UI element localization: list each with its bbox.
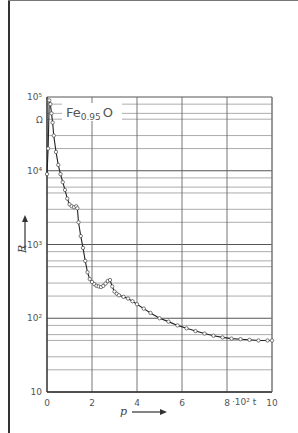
data-point-marker [59,172,62,175]
y-axis-label: R [16,245,29,254]
data-point-marker [88,277,91,280]
data-point-marker [52,134,55,137]
x-tick-label: 6 [179,398,185,408]
data-point-marker [212,334,215,337]
data-point-marker [46,147,49,150]
data-point-marker [51,121,54,124]
x-axis-extra-label: ·10² t [232,397,257,407]
data-point-marker [194,329,197,332]
y-tick-label: 10 [31,387,43,397]
y-tick-label: 10² [27,313,42,323]
resistance-chart: 02468101010²10³10⁴10⁵ Fe0.95O Ω p ·10² t… [0,0,298,433]
x-tick-label: 8 [224,398,230,408]
x-tick-label: 4 [134,398,140,408]
data-point-marker [158,317,161,320]
data-point-marker [111,285,114,288]
data-point-marker [117,294,120,297]
data-point-marker [257,339,260,342]
data-point-marker [142,307,145,310]
data-point-marker [66,197,69,200]
y-tick-label: 10⁴ [27,166,42,176]
data-point-marker [61,180,64,183]
x-tick-label: 0 [44,398,50,408]
data-point-marker [203,332,206,335]
y-unit-label: Ω [36,115,43,125]
data-point-marker [57,163,60,166]
data-point-marker [79,234,82,237]
data-point-marker [221,336,224,339]
chart-grid [47,97,272,392]
data-point-marker [135,303,138,306]
data-point-marker [108,278,111,281]
y-tick-label: 10⁵ [27,92,42,102]
data-point-marker [248,338,251,341]
data-point-marker [122,295,125,298]
data-point-marker [50,112,53,115]
data-point-marker [270,339,273,342]
x-axis-label: p [120,405,127,418]
data-point-marker [230,337,233,340]
chart-axes: 02468101010²10³10⁴10⁵ [22,92,278,415]
data-point-marker [76,207,79,210]
data-point-marker [176,324,179,327]
data-point-marker [86,271,89,274]
y-tick-label: 10³ [27,240,42,250]
chart-series [45,99,273,342]
data-point-marker [77,221,80,224]
data-point-marker [49,102,52,105]
data-point-marker [239,337,242,340]
data-point-marker [131,300,134,303]
chart-legend: Fe0.95O [62,103,122,122]
data-point-marker [63,188,66,191]
data-point-marker [266,339,269,342]
data-point-marker [149,311,152,314]
x-tick-label: 10 [266,398,278,408]
data-point-marker [54,150,57,153]
data-point-marker [167,320,170,323]
data-point-marker [126,297,129,300]
x-tick-label: 2 [89,398,95,408]
y-axis-label-group: R [16,245,29,254]
data-point-marker [48,99,51,102]
data-point-marker [185,327,188,330]
data-point-marker [84,259,87,262]
data-point-marker [45,172,48,175]
data-point-marker [81,246,84,249]
